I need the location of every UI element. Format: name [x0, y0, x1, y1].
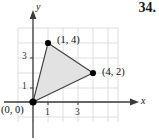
y-axis-label: y	[36, 2, 40, 12]
x-tick-label-1: 1	[45, 108, 50, 118]
y-tick-label-1: 1	[22, 82, 27, 92]
y-tick-label-3: 3	[22, 52, 27, 62]
coordinate-plane-plot	[0, 0, 159, 140]
vertex-point-v2	[90, 70, 96, 76]
vertex-point-v3	[29, 98, 36, 105]
x-axis	[4, 99, 139, 106]
y-axis	[30, 10, 37, 138]
vertex-point-v1	[45, 40, 51, 46]
vertex-label-v1: (1, 4)	[57, 35, 80, 46]
vertex-label-v2: (4, 2)	[102, 67, 125, 78]
x-tick-label-3: 3	[75, 108, 80, 118]
exercise-number: 34.	[139, 1, 157, 15]
x-axis-label: x	[141, 96, 145, 106]
exercise-figure: 34. (1, 4) (4, 2) (0, 0) y x 3 1 1 3	[0, 0, 159, 140]
vertex-label-v3: (0, 0)	[1, 105, 24, 116]
